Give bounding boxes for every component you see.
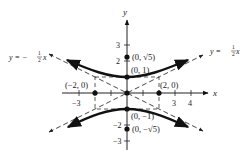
label-right-point: (2, 0): [160, 80, 179, 90]
svg-text:2: 2: [232, 51, 235, 57]
point-top-vertex: [124, 74, 129, 79]
label-left-point: (−2, 0): [65, 80, 88, 90]
point-bottom-focus: [124, 126, 129, 131]
svg-text:x: x: [235, 47, 240, 56]
svg-text:x: x: [42, 53, 47, 62]
label-top-focus: (0, √5): [132, 52, 155, 62]
svg-text:1: 1: [38, 50, 41, 56]
point-right: [156, 90, 161, 95]
hyperbola-diagram: y x −3 3 4 3 2 −2 −3 (0, √5) (0, 1) (−2,…: [0, 0, 242, 162]
x-tick-label: 4: [188, 99, 192, 108]
x-tick-label: 3: [172, 99, 176, 108]
label-bottom-focus: (0, −√5): [132, 124, 160, 134]
y-axis-label: y: [122, 7, 127, 17]
svg-text:1: 1: [232, 44, 235, 50]
y-tick-label: −2: [113, 121, 122, 130]
x-axis-label: x: [212, 88, 217, 98]
point-bottom-vertex: [124, 106, 129, 111]
svg-text:y = −: y = −: [8, 53, 27, 62]
y-tick-label: 3: [116, 41, 120, 50]
hyperbola-lower-branch: [68, 109, 188, 127]
x-tick-label: −3: [72, 99, 81, 108]
svg-text:2: 2: [38, 57, 41, 63]
svg-text:y =: y =: [209, 47, 221, 56]
point-left: [92, 90, 97, 95]
label-top-vertex: (0, 1): [131, 65, 150, 75]
asymptote-label-left: y = − 1 2 x: [8, 50, 47, 63]
point-origin: [124, 90, 129, 95]
y-tick-label: 2: [116, 57, 120, 66]
y-tick-label: −3: [113, 137, 122, 146]
point-top-focus: [124, 54, 129, 59]
asymptote-label-right: y = 1 2 x: [209, 44, 240, 57]
label-bottom-vertex: (0, −1): [131, 111, 154, 121]
